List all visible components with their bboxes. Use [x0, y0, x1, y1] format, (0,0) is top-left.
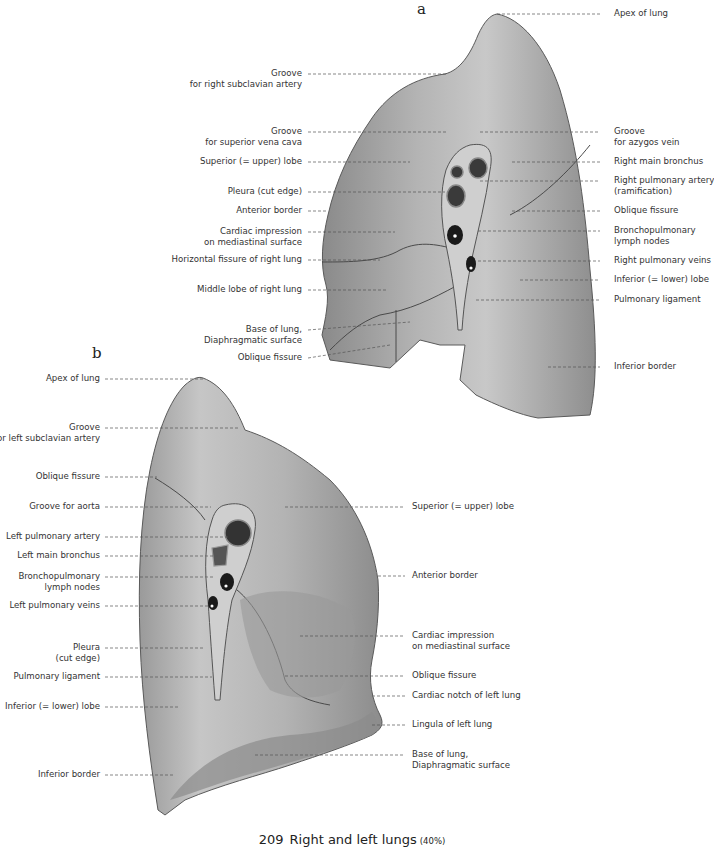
label-pulmonary-ligament-b: Pulmonary ligament	[13, 671, 100, 682]
label-left-main-bronchus: Left main bronchus	[17, 550, 100, 561]
label-right-main-bronchus: Right main bronchus	[614, 156, 703, 167]
label-line: Oblique fissure	[36, 471, 100, 482]
label-line: Cardiac impression	[204, 226, 302, 237]
label-line: for right subclavian artery	[190, 79, 302, 90]
label-left-pulmonary-artery: Left pulmonary artery	[6, 531, 100, 542]
label-line: Groove	[614, 126, 680, 137]
label-bronchopulmonary-lymph-nodes-b: Bronchopulmonary lymph nodes	[18, 571, 100, 593]
label-anterior-border-b: Anterior border	[412, 570, 478, 581]
label-pleura-cut-edge-b: Pleura (cut edge)	[56, 642, 100, 664]
label-base-of-lung: Base of lung, Diaphragmatic surface	[204, 324, 302, 346]
label-line: for superior vena cava	[205, 137, 302, 148]
label-line: Inferior border	[614, 361, 676, 372]
label-line: lymph nodes	[614, 236, 696, 247]
label-superior-lobe: Superior (= upper) lobe	[200, 156, 302, 167]
label-line: Pulmonary ligament	[13, 671, 100, 682]
label-line: Groove for aorta	[29, 501, 100, 512]
label-line: Anterior border	[236, 205, 302, 216]
label-line: Inferior border	[38, 769, 100, 780]
label-line: Pleura	[56, 642, 100, 653]
label-line: Apex of lung	[614, 8, 668, 19]
label-pleura-cut-edge: Pleura (cut edge)	[228, 186, 302, 197]
label-line: Right pulmonary veins	[614, 255, 711, 266]
label-middle-lobe: Middle lobe of right lung	[197, 284, 302, 295]
figure-number: 209	[259, 832, 284, 847]
label-line: Apex of lung	[46, 373, 100, 384]
label-superior-lobe-b: Superior (= upper) lobe	[412, 501, 514, 512]
label-line: Diaphragmatic surface	[412, 760, 510, 771]
label-line: Superior (= upper) lobe	[200, 156, 302, 167]
label-line: Pulmonary ligament	[614, 294, 701, 305]
label-line: Lingula of left lung	[412, 719, 492, 730]
left-lung-illustration	[139, 377, 382, 815]
label-line: Pleura (cut edge)	[228, 186, 302, 197]
label-line: (ramification)	[614, 186, 714, 197]
label-line: Horizontal fissure of right lung	[172, 254, 302, 265]
label-cardiac-notch: Cardiac notch of left lung	[412, 690, 521, 701]
label-line: Left main bronchus	[17, 550, 100, 561]
label-base-of-lung-b: Base of lung, Diaphragmatic surface	[412, 749, 510, 771]
figure-caption: 209Right and left lungs(40%)	[0, 832, 704, 847]
label-horizontal-fissure: Horizontal fissure of right lung	[172, 254, 302, 265]
label-cardiac-impression: Cardiac impression on mediastinal surfac…	[204, 226, 302, 248]
label-line: Left pulmonary artery	[6, 531, 100, 542]
label-right-pulmonary-artery: Right pulmonary artery (ramification)	[614, 175, 714, 197]
label-oblique-fissure-a: Oblique fissure	[238, 352, 302, 363]
label-line: Right main bronchus	[614, 156, 703, 167]
label-line: Bronchopulmonary	[18, 571, 100, 582]
label-oblique-fissure-a-right: Oblique fissure	[614, 205, 678, 216]
label-groove-right-subclavian-artery: Groove for right subclavian artery	[190, 68, 302, 90]
label-inferior-lobe-b: Inferior (= lower) lobe	[5, 701, 100, 712]
label-line: (cut edge)	[56, 653, 100, 664]
label-inferior-border-a: Inferior border	[614, 361, 676, 372]
label-line: Cardiac impression	[412, 630, 510, 641]
label-line: Inferior (= lower) lobe	[614, 274, 709, 285]
label-apex-of-lung-b: Apex of lung	[46, 373, 100, 384]
label-line: Oblique fissure	[614, 205, 678, 216]
label-anterior-border: Anterior border	[236, 205, 302, 216]
label-right-pulmonary-veins: Right pulmonary veins	[614, 255, 711, 266]
label-line: Inferior (= lower) lobe	[5, 701, 100, 712]
label-oblique-fissure-b-right: Oblique fissure	[412, 670, 476, 681]
label-cardiac-impression-b: Cardiac impression on mediastinal surfac…	[412, 630, 510, 652]
label-line: Cardiac notch of left lung	[412, 690, 521, 701]
label-line: on mediastinal surface	[204, 237, 302, 248]
label-line: Anterior border	[412, 570, 478, 581]
label-line: Left pulmonary veins	[9, 600, 100, 611]
label-inferior-border-b: Inferior border	[38, 769, 100, 780]
label-groove-superior-vena-cava: Groove for superior vena cava	[205, 126, 302, 148]
label-groove-left-subclavian-artery: Groove for left subclavian artery	[0, 422, 100, 444]
label-apex-of-lung-a: Apex of lung	[614, 8, 668, 19]
label-line: Base of lung,	[204, 324, 302, 335]
label-line: Oblique fissure	[412, 670, 476, 681]
label-line: on mediastinal surface	[412, 641, 510, 652]
label-bronchopulmonary-lymph-nodes-a: Bronchopulmonary lymph nodes	[614, 225, 696, 247]
label-line: Base of lung,	[412, 749, 510, 760]
label-oblique-fissure-b-left: Oblique fissure	[36, 471, 100, 482]
label-line: for azygos vein	[614, 137, 680, 148]
label-line: for left subclavian artery	[0, 433, 100, 444]
label-line: lymph nodes	[18, 582, 100, 593]
right-lung-illustration	[322, 14, 595, 418]
label-pulmonary-ligament-a: Pulmonary ligament	[614, 294, 701, 305]
label-line: Oblique fissure	[238, 352, 302, 363]
label-line: Right pulmonary artery	[614, 175, 714, 186]
label-line: Middle lobe of right lung	[197, 284, 302, 295]
caption-text: Right and left lungs	[290, 832, 417, 847]
label-left-pulmonary-veins: Left pulmonary veins	[9, 600, 100, 611]
caption-scale: (40%)	[420, 836, 446, 846]
label-groove-for-aorta: Groove for aorta	[29, 501, 100, 512]
label-groove-azygos-vein: Groove for azygos vein	[614, 126, 680, 148]
label-line: Diaphragmatic surface	[204, 335, 302, 346]
label-line: Superior (= upper) lobe	[412, 501, 514, 512]
label-inferior-lobe-a: Inferior (= lower) lobe	[614, 274, 709, 285]
label-line: Groove	[205, 126, 302, 137]
label-lingula: Lingula of left lung	[412, 719, 492, 730]
label-line: Groove	[190, 68, 302, 79]
label-line: Bronchopulmonary	[614, 225, 696, 236]
label-line: Groove	[0, 422, 100, 433]
